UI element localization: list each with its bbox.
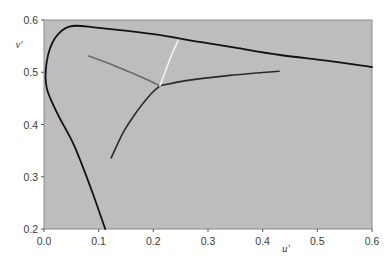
- plot-area: [44, 20, 372, 229]
- x-tick-label: 0.3: [201, 235, 216, 247]
- y-tick-label: 0.2: [23, 223, 38, 235]
- x-tick-label: 0.1: [91, 235, 106, 247]
- chromaticity-chart: 0.00.10.20.30.40.50.6 0.20.30.40.50.6 u'…: [0, 0, 392, 265]
- y-axis-label: v': [15, 38, 23, 50]
- y-axis: 0.20.30.40.50.6: [23, 14, 44, 235]
- x-axis-label: u': [282, 242, 291, 254]
- y-tick-label: 0.3: [23, 171, 38, 183]
- x-tick-label: 0.6: [365, 235, 380, 247]
- x-tick-label: 0.5: [310, 235, 325, 247]
- y-tick-label: 0.5: [23, 66, 38, 78]
- y-tick-label: 0.4: [23, 119, 38, 131]
- y-tick-label: 0.6: [23, 14, 38, 26]
- x-tick-label: 0.4: [255, 235, 270, 247]
- x-tick-label: 0.2: [146, 235, 161, 247]
- x-tick-label: 0.0: [37, 235, 52, 247]
- x-axis: 0.00.10.20.30.40.50.6: [37, 229, 380, 247]
